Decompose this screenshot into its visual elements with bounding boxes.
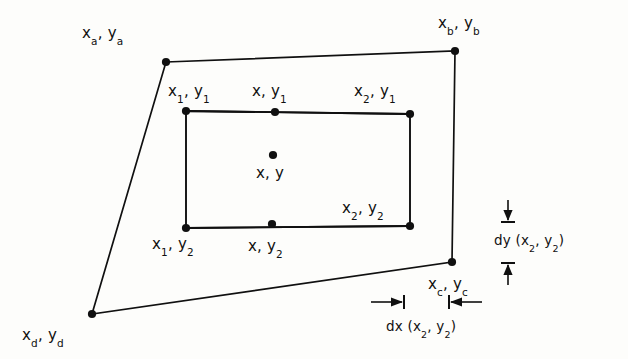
node-dot-b: [451, 47, 459, 55]
node-dot-tr: [406, 110, 414, 118]
label-xd-yd: xd, yd: [22, 328, 64, 343]
figure-canvas: xa, ya xb, yb xc, yc xd, yd x1, y1 x, y1…: [0, 0, 628, 359]
node-dot-bc: [268, 220, 276, 228]
label-x-y: x, y: [256, 166, 284, 181]
dx-right-arrow-head: [450, 297, 462, 306]
label-dx-dimension: dx (x2, y2): [386, 320, 456, 334]
inner-bottom-edge-segment: [186, 226, 410, 228]
label-x-y2: x, y2: [248, 239, 283, 254]
label-x1-y1: x1, y1: [168, 84, 210, 99]
label-x-y1: x, y1: [252, 84, 287, 99]
node-dot-tc: [271, 108, 279, 116]
dy-upper-arrow-head: [503, 210, 512, 221]
node-dot-br: [406, 222, 414, 230]
label-x2-y2: x2, y2: [342, 201, 384, 216]
label-xc-yc: xc, yc: [428, 277, 468, 292]
node-dot-a: [162, 58, 170, 66]
inner-top-edge-segment: [186, 111, 410, 114]
label-dy-dimension: dy (x2, y2): [494, 234, 564, 248]
node-dot-bl: [182, 224, 190, 232]
diagram-svg: [0, 0, 628, 359]
node-dot-center: [269, 151, 277, 159]
label-x2-y1: x2, y1: [354, 84, 396, 99]
dx-left-arrow-head: [391, 297, 403, 306]
label-xa-ya: xa, ya: [82, 26, 123, 41]
label-x1-y2: x1, y2: [152, 237, 194, 252]
node-dot-d: [88, 310, 96, 318]
dy-lower-arrow-head: [503, 264, 512, 275]
node-dot-tl: [182, 107, 190, 115]
label-xb-yb: xb, yb: [438, 16, 480, 31]
node-dot-c: [448, 258, 456, 266]
